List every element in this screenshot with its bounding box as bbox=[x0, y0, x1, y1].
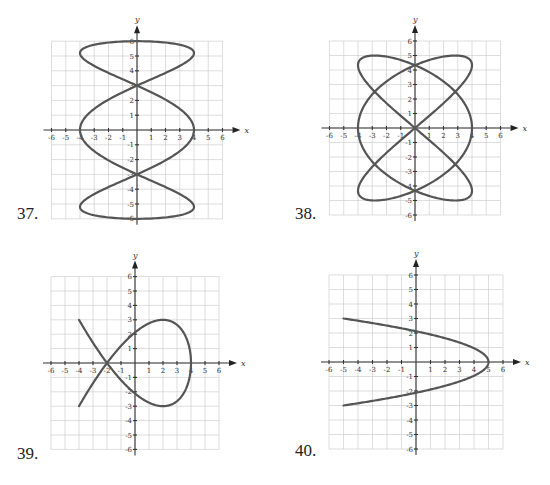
x-tick-label: 5 bbox=[206, 134, 210, 142]
y-tick-label: 1 bbox=[128, 345, 132, 353]
x-tick-label: -3 bbox=[91, 134, 98, 142]
y-axis-arrow-icon bbox=[132, 261, 138, 269]
x-tick-label: -6 bbox=[326, 132, 333, 140]
y-tick-label: -5 bbox=[405, 197, 412, 205]
x-tick-label: -2 bbox=[105, 134, 112, 142]
x-tick-label: -3 bbox=[90, 367, 97, 375]
x-axis-label: x bbox=[525, 358, 530, 367]
x-axis-arrow-icon bbox=[229, 360, 237, 366]
y-tick-label: -1 bbox=[405, 139, 412, 147]
x-tick-label: -3 bbox=[369, 132, 376, 140]
x-tick-label: -2 bbox=[104, 367, 111, 375]
x-axis-label: x bbox=[241, 359, 246, 368]
x-tick-label: 6 bbox=[501, 366, 506, 374]
x-tick-label: -1 bbox=[398, 366, 405, 374]
graph-38: xy-6-5-4-3-2-1123456-6-5-4-3-2-1123456 bbox=[314, 8, 524, 230]
y-tick-label: 4 bbox=[409, 301, 414, 309]
y-axis-arrow-icon bbox=[134, 25, 140, 33]
y-tick-label: 1 bbox=[408, 110, 412, 118]
x-tick-label: 3 bbox=[457, 366, 461, 374]
x-tick-label: 6 bbox=[220, 134, 225, 142]
y-tick-label: 3 bbox=[128, 316, 132, 324]
y-tick-label: 5 bbox=[408, 52, 412, 60]
x-tick-label: 1 bbox=[428, 366, 432, 374]
y-tick-label: -6 bbox=[125, 446, 132, 454]
x-tick-label: -6 bbox=[326, 366, 333, 374]
y-tick-label: 2 bbox=[130, 97, 134, 105]
y-tick-label: -3 bbox=[405, 168, 412, 176]
y-tick-label: -6 bbox=[406, 446, 413, 454]
x-tick-label: 3 bbox=[175, 367, 179, 375]
x-tick-label: -2 bbox=[383, 132, 390, 140]
x-tick-label: 2 bbox=[441, 132, 445, 140]
x-tick-label: 5 bbox=[484, 132, 488, 140]
graph-37: xy-6-5-4-3-2-1123456-6-5-4-3-2-1123456 bbox=[36, 8, 246, 230]
y-tick-label: -4 bbox=[406, 417, 413, 425]
x-tick-label: -4 bbox=[76, 367, 83, 375]
y-axis-arrow-icon bbox=[413, 259, 419, 267]
x-axis-arrow-icon bbox=[233, 127, 241, 133]
x-tick-label: 5 bbox=[203, 367, 207, 375]
y-tick-label: -3 bbox=[406, 402, 413, 410]
y-tick-label: 2 bbox=[408, 96, 412, 104]
x-tick-label: -1 bbox=[119, 134, 126, 142]
x-axis-label: x bbox=[245, 126, 250, 135]
y-tick-label: -5 bbox=[406, 431, 413, 439]
x-tick-label: 6 bbox=[498, 132, 503, 140]
y-tick-label: 1 bbox=[130, 112, 134, 120]
y-tick-label: -1 bbox=[406, 373, 413, 381]
x-tick-label: -1 bbox=[118, 367, 125, 375]
graph-40: xy-6-5-4-3-2-1123456-6-5-4-3-2-1123456 bbox=[314, 244, 524, 466]
y-axis-arrow-icon bbox=[412, 25, 418, 33]
x-axis-arrow-icon bbox=[511, 125, 519, 131]
y-tick-label: -2 bbox=[405, 154, 412, 162]
x-tick-label: 4 bbox=[472, 366, 477, 374]
y-axis-label: y bbox=[132, 251, 138, 260]
y-tick-label: -3 bbox=[125, 403, 132, 411]
x-tick-label: 2 bbox=[161, 367, 165, 375]
y-tick-label: -4 bbox=[127, 186, 134, 194]
y-tick-label: 1 bbox=[409, 344, 413, 352]
y-tick-label: 6 bbox=[128, 273, 133, 281]
x-tick-label: 2 bbox=[443, 366, 447, 374]
y-tick-label: 3 bbox=[408, 81, 412, 89]
y-tick-label: -5 bbox=[125, 432, 132, 440]
x-axis-arrow-icon bbox=[513, 359, 521, 365]
y-axis-label: y bbox=[134, 15, 140, 24]
y-tick-label: 4 bbox=[128, 302, 133, 310]
y-tick-label: 6 bbox=[408, 38, 413, 46]
x-tick-label: 6 bbox=[217, 367, 222, 375]
x-tick-label: -6 bbox=[48, 367, 55, 375]
x-tick-label: -5 bbox=[340, 132, 347, 140]
x-tick-label: -3 bbox=[369, 366, 376, 374]
y-tick-label: 5 bbox=[130, 53, 134, 61]
x-tick-label: -2 bbox=[384, 366, 391, 374]
y-tick-label: 4 bbox=[130, 67, 135, 75]
x-tick-label: 3 bbox=[178, 134, 182, 142]
y-tick-label: -1 bbox=[125, 374, 132, 382]
y-tick-label: -4 bbox=[125, 417, 132, 425]
y-axis-label: y bbox=[413, 249, 419, 258]
y-tick-label: 5 bbox=[128, 288, 132, 296]
y-tick-label: 6 bbox=[409, 272, 414, 280]
x-axis-label: x bbox=[523, 124, 528, 133]
y-tick-label: -5 bbox=[127, 201, 134, 209]
y-tick-label: -2 bbox=[127, 156, 134, 164]
x-tick-label: -6 bbox=[48, 134, 55, 142]
x-tick-label: 1 bbox=[149, 134, 153, 142]
x-tick-label: 1 bbox=[147, 367, 151, 375]
y-tick-label: 3 bbox=[409, 315, 413, 323]
x-tick-label: -5 bbox=[62, 367, 69, 375]
y-tick-label: -6 bbox=[405, 212, 412, 220]
y-tick-label: -1 bbox=[127, 141, 134, 149]
x-tick-label: 2 bbox=[163, 134, 167, 142]
x-tick-label: -4 bbox=[355, 366, 362, 374]
x-tick-label: 3 bbox=[456, 132, 460, 140]
y-tick-label: 5 bbox=[409, 286, 413, 294]
graph-39: xy-6-5-4-3-2-1123456-6-5-4-3-2-1123456 bbox=[36, 246, 246, 468]
x-tick-label: -5 bbox=[62, 134, 69, 142]
x-tick-label: -5 bbox=[340, 366, 347, 374]
y-axis-label: y bbox=[412, 15, 418, 24]
